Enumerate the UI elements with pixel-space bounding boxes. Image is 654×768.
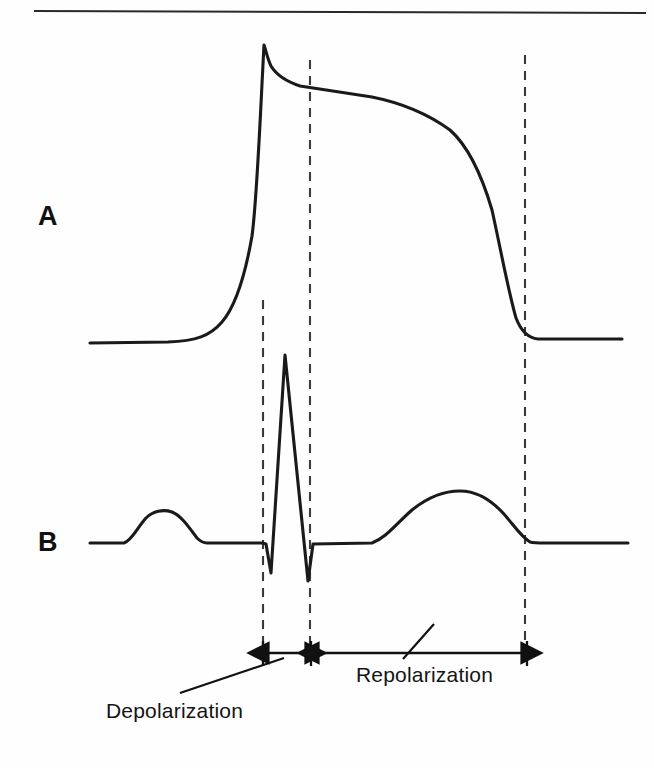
panel-label-b: B bbox=[38, 529, 58, 556]
repolarization-label: Repolarization bbox=[356, 664, 493, 685]
panel-label-a: A bbox=[38, 203, 58, 230]
depolarization-label: Depolarization bbox=[106, 700, 243, 721]
figure-svg bbox=[0, 0, 654, 768]
ecg-curve bbox=[90, 355, 628, 581]
top-divider-rule bbox=[34, 11, 646, 13]
figure-container: A B Depolarization Repolarization bbox=[0, 0, 654, 768]
action-potential-curve bbox=[90, 45, 622, 343]
depolarization-leader-line bbox=[180, 658, 284, 693]
